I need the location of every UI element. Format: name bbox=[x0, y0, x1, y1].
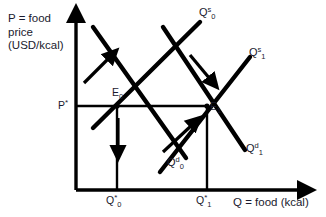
price-axis-title-line1: P = food bbox=[8, 12, 64, 26]
equilibrium-point-e0 bbox=[114, 103, 119, 108]
quantity-0-tick-base: Q bbox=[106, 194, 114, 206]
price-star-tick-label: P* bbox=[58, 99, 68, 111]
demand-curve-0-label-sub: 0 bbox=[180, 162, 184, 171]
equilibrium-e0-label-sub: 0 bbox=[119, 92, 123, 101]
price-axis-title: P = food price (USD/kcal) bbox=[8, 12, 64, 53]
equilibrium-e1-label-base: E bbox=[210, 100, 217, 112]
quantity-0-tick-label: Q*0 bbox=[106, 194, 121, 207]
supply-curve-1-label: Qs1 bbox=[249, 46, 265, 59]
quantity-0-tick-sub: 0 bbox=[117, 200, 121, 209]
quantity-1-tick-sub: 1 bbox=[207, 200, 211, 209]
equilibrium-e1-label-sub: 1 bbox=[217, 106, 221, 115]
equilibrium-e1-label: E1 bbox=[210, 100, 221, 113]
quantity-1-tick-base: Q bbox=[196, 194, 204, 206]
price-star-tick-star: * bbox=[65, 98, 68, 107]
equilibrium-e0-label-base: E bbox=[112, 86, 119, 98]
supply-curve-0-label-sub: 0 bbox=[211, 12, 215, 21]
demand-curve-1-label-sub: 1 bbox=[259, 148, 263, 157]
supply-curve-1-label-base: Q bbox=[249, 46, 258, 58]
demand-curve-0-label: Qd0 bbox=[167, 156, 184, 169]
equilibrium-point-e1 bbox=[204, 103, 209, 108]
demand-curve-1 bbox=[163, 27, 245, 150]
price-star-tick-base: P bbox=[58, 99, 65, 111]
price-axis-title-line3: (USD/kcal) bbox=[8, 39, 64, 53]
quantity-axis-title: Q = food (kcal) bbox=[233, 196, 309, 210]
demand-curve-1-label-base: Q bbox=[246, 142, 255, 154]
shift-arrow-up-right-upper bbox=[84, 58, 109, 83]
supply-demand-figure: P = food price (USD/kcal) Q = food (kcal… bbox=[0, 0, 326, 217]
price-axis-title-line2: price bbox=[8, 26, 64, 40]
supply-curve-0 bbox=[93, 22, 200, 128]
quantity-1-tick-label: Q*1 bbox=[196, 194, 211, 207]
supply-curve-0-label-base: Q bbox=[199, 6, 208, 18]
supply-curve-1-label-sub: 1 bbox=[261, 52, 265, 61]
demand-curve-0-label-base: Q bbox=[167, 156, 176, 168]
supply-curve-0-label: Qs0 bbox=[199, 6, 215, 19]
equilibrium-e0-label: E0 bbox=[112, 86, 123, 99]
demand-curve-1-label: Qd1 bbox=[246, 142, 263, 155]
